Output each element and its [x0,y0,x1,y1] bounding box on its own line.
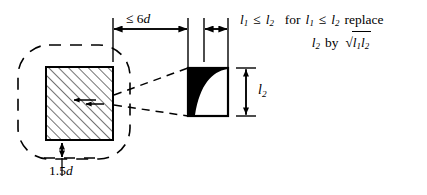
note-l2-sub: 2 [269,18,273,28]
condition-note: l1≤l2forl1≤l2replace l2by√l1l2 [240,10,425,55]
note-relation-1: ≤ [253,12,260,27]
six-d-relation: ≤ 6 [126,11,144,26]
l2-subscript: 2 [262,89,267,99]
note-for-word: for [285,12,301,27]
six-d-symbol: d [144,11,151,26]
one-five-d-symbol: d [66,163,73,178]
note-l1-sub: 1 [244,18,248,28]
one-point-five-d-label: 1.5d [49,164,73,178]
radical-expression: √l1l2 [343,31,371,54]
note-relation-2: ≤ [319,12,326,27]
note2-l2-sub: 2 [315,42,319,52]
note-replace-word: replace [344,12,383,27]
l2-dimension-label: l2 [258,83,267,99]
radicand: l1l2 [352,31,371,54]
note-line-2: l2by√l1l2 [240,31,425,54]
rad-l2-sub: 2 [365,42,369,52]
shear-distribution-detail [188,68,228,116]
note-by-word: by [325,35,339,50]
six-d-dimension-label: ≤ 6d [126,12,150,26]
detail-projection-lines [114,68,188,116]
one-five-d-number: 1.5 [49,163,66,178]
l2-dimension-line [236,68,256,116]
note-l1-sub-2: 1 [309,18,313,28]
note-l2-sub-2: 2 [335,18,339,28]
note-line-1: l1≤l2forl1≤l2replace [240,10,425,31]
technical-figure: ≤ 6d 1.5d l2 l1≤l2forl1≤l2replace l2by√l… [0,0,427,195]
